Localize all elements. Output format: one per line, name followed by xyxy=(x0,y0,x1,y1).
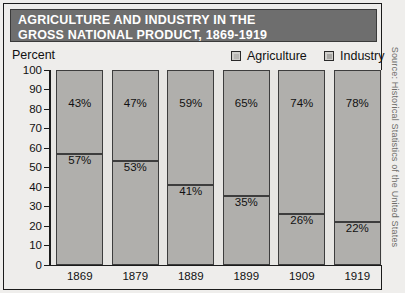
y-axis-tick xyxy=(44,167,49,168)
bar-segment-value: 57% xyxy=(68,154,91,250)
bar-segment-industry: 43% xyxy=(56,70,103,154)
bar-segment-value: 41% xyxy=(179,185,202,250)
chart-title-line-2: GROSS NATIONAL PRODUCT, 1869-1919 xyxy=(18,28,376,43)
legend-label-agriculture: Agriculture xyxy=(247,49,307,63)
source-credit: Source: Historical Statistics of the Uni… xyxy=(384,0,405,293)
y-axis-tick-label: 60 xyxy=(29,142,42,154)
bar-segment-value: 59% xyxy=(179,97,202,109)
chart-title-bar: AGRICULTURE AND INDUSTRY IN THE GROSS NA… xyxy=(10,9,377,42)
bar-segment-value: 74% xyxy=(290,97,313,109)
y-axis-tick-label: 90 xyxy=(29,83,42,95)
y-axis-tick xyxy=(44,226,49,227)
bar-segment-agriculture: 41% xyxy=(167,185,214,265)
x-axis-tick-label: 1889 xyxy=(178,270,204,282)
x-axis-tick-label: 1919 xyxy=(344,270,370,282)
x-axis-tick-label: 1879 xyxy=(122,270,148,282)
bar-segment-industry: 74% xyxy=(278,70,325,214)
bar-segment-value: 26% xyxy=(290,214,313,250)
y-axis-tick xyxy=(44,148,49,149)
bar-segment-agriculture: 57% xyxy=(56,154,103,265)
y-axis-tick-label: 30 xyxy=(29,200,42,212)
figure-frame: AGRICULTURE AND INDUSTRY IN THE GROSS NA… xyxy=(3,3,382,290)
y-axis-tick xyxy=(44,70,49,71)
y-axis-tick-label: 70 xyxy=(29,122,42,134)
y-axis-tick xyxy=(44,89,49,90)
x-axis-tick-label: 1909 xyxy=(289,270,315,282)
stacked-bar: 59%41% xyxy=(167,70,214,265)
plot-area: 0102030405060708090100 43%57%47%53%59%41… xyxy=(49,70,382,266)
x-axis-tick-label: 1899 xyxy=(233,270,259,282)
chart-figure: AGRICULTURE AND INDUSTRY IN THE GROSS NA… xyxy=(0,0,405,293)
y-axis-tick xyxy=(44,109,49,110)
x-axis-line xyxy=(49,265,382,267)
legend-swatch-agriculture-icon xyxy=(231,51,241,61)
legend-swatch-industry-icon xyxy=(324,51,334,61)
bar-segment-value: 65% xyxy=(235,97,258,109)
bar-segment-industry: 59% xyxy=(167,70,214,185)
bar-segment-value: 22% xyxy=(346,222,369,250)
stacked-bar: 43%57% xyxy=(56,70,103,265)
bar-segment-value: 43% xyxy=(68,97,91,109)
bar-segment-value: 47% xyxy=(124,97,147,109)
y-axis-tick xyxy=(44,265,49,266)
source-credit-text: Source: Historical Statistics of the Uni… xyxy=(390,46,400,247)
y-axis-title: Percent xyxy=(12,48,55,62)
y-axis-tick-label: 20 xyxy=(29,220,42,232)
bar-segment-industry: 65% xyxy=(223,70,270,196)
legend-label-industry: Industry xyxy=(340,49,384,63)
y-axis-tick-label: 40 xyxy=(29,181,42,193)
x-axis-tick-label: 1869 xyxy=(67,270,93,282)
bar-segment-value: 53% xyxy=(124,161,147,249)
bar-segment-agriculture: 35% xyxy=(223,196,270,264)
y-axis-tick-label: 50 xyxy=(29,161,42,173)
y-axis-tick-label: 100 xyxy=(23,64,42,76)
stacked-bar: 74%26% xyxy=(278,70,325,265)
stacked-bar: 78%22% xyxy=(334,70,381,265)
y-axis-line xyxy=(49,70,51,266)
y-axis-tick xyxy=(44,245,49,246)
bar-segment-agriculture: 53% xyxy=(112,161,159,264)
chart-title-line-1: AGRICULTURE AND INDUSTRY IN THE xyxy=(18,13,376,28)
bar-segment-agriculture: 22% xyxy=(334,222,381,265)
y-axis-tick-label: 80 xyxy=(29,103,42,115)
y-axis-tick xyxy=(44,187,49,188)
y-axis-tick-label: 10 xyxy=(29,239,42,251)
y-axis-tick-label: 0 xyxy=(36,259,42,271)
bar-segment-industry: 78% xyxy=(334,70,381,222)
y-axis-tick xyxy=(44,206,49,207)
stacked-bar: 47%53% xyxy=(112,70,159,265)
stacked-bar: 65%35% xyxy=(223,70,270,265)
bar-segment-value: 78% xyxy=(346,97,369,109)
legend-item-industry: Industry xyxy=(324,49,384,63)
legend-item-agriculture: Agriculture xyxy=(231,49,307,63)
bar-segment-industry: 47% xyxy=(112,70,159,161)
bar-segment-value: 35% xyxy=(235,196,258,249)
y-axis-tick xyxy=(44,128,49,129)
bar-segment-agriculture: 26% xyxy=(278,214,325,265)
